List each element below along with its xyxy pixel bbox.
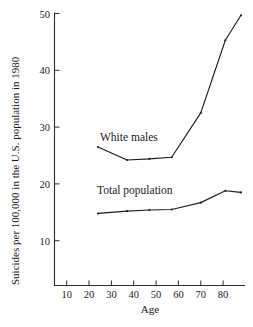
- data-point: [240, 14, 242, 16]
- data-point: [148, 158, 150, 160]
- data-point: [97, 212, 99, 214]
- y-axis-tick-labels: 50 40 30 20 10: [40, 9, 51, 247]
- y-tick-label-20: 20: [40, 179, 51, 190]
- x-tick-label-40: 40: [128, 289, 139, 300]
- data-point: [240, 191, 242, 193]
- data-point: [200, 202, 202, 204]
- series-label-total-population: Total population: [97, 184, 173, 197]
- series-label-white-males: White males: [100, 131, 158, 143]
- data-point: [200, 112, 202, 114]
- y-tick-label-10: 10: [40, 236, 51, 247]
- data-point: [126, 159, 128, 161]
- x-tick-label-80: 80: [218, 289, 229, 300]
- y-tick-label-30: 30: [40, 122, 51, 133]
- data-point: [126, 210, 128, 212]
- x-tick-label-30: 30: [106, 289, 117, 300]
- data-point: [97, 146, 99, 148]
- x-tick-label-60: 60: [173, 289, 184, 300]
- x-tick-label-20: 20: [84, 289, 95, 300]
- x-axis-title: Age: [141, 303, 159, 315]
- x-axis-tick-labels: 10 20 30 40 50 60 70 80: [61, 289, 228, 300]
- data-point: [224, 190, 226, 192]
- y-tick-label-40: 40: [40, 65, 51, 76]
- chart-figure: Suicides per 100,000 in the U.S. populat…: [0, 0, 253, 327]
- x-tick-label-10: 10: [61, 289, 72, 300]
- y-tick-label-50: 50: [40, 9, 51, 20]
- data-point: [171, 208, 173, 210]
- data-point: [171, 156, 173, 158]
- x-tick-label-70: 70: [196, 289, 207, 300]
- y-axis-ticks: [55, 14, 60, 241]
- data-point: [148, 209, 150, 211]
- data-point: [224, 39, 226, 41]
- x-tick-label-50: 50: [151, 289, 162, 300]
- x-axis-ticks: [67, 281, 223, 286]
- y-axis-title: Suicides per 100,000 in the U.S. populat…: [9, 56, 21, 285]
- suicide-rate-chart: Suicides per 100,000 in the U.S. populat…: [0, 0, 253, 327]
